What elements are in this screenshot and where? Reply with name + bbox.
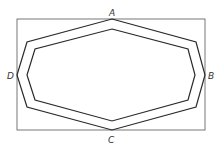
label-c: C [108, 135, 115, 145]
inner-octagon [27, 29, 195, 121]
outer-octagon [17, 19, 205, 130]
bounding-rectangle [17, 19, 205, 130]
octagon-diagram: A B C D [0, 0, 224, 150]
label-a: A [108, 8, 115, 18]
label-d: D [7, 71, 14, 81]
label-b: B [208, 71, 214, 81]
